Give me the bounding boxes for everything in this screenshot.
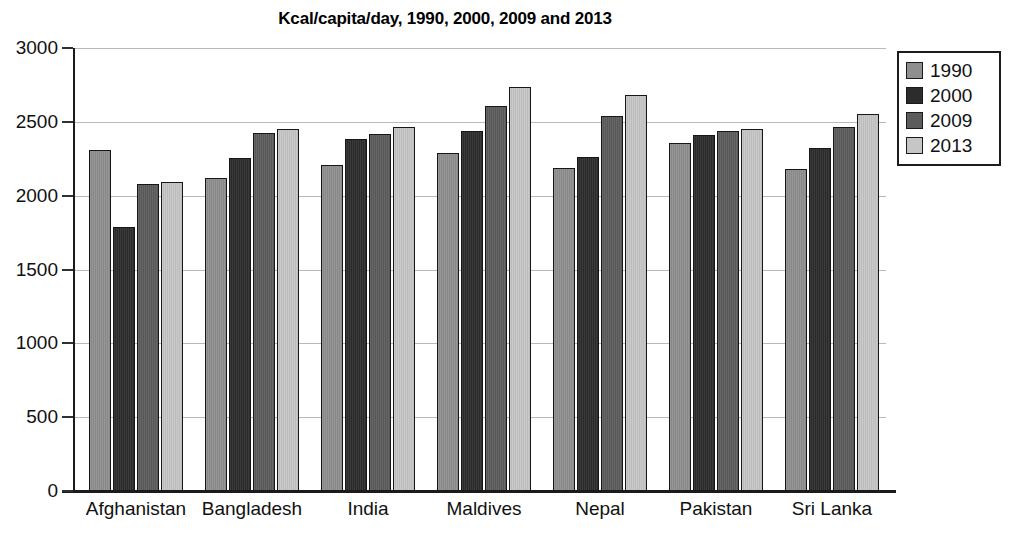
bar[interactable]	[161, 182, 183, 491]
chart-title: Kcal/capita/day, 1990, 2000, 2009 and 20…	[0, 9, 890, 29]
x-axis-labels: AfghanistanBangladeshIndiaMaldivesNepalP…	[74, 498, 886, 532]
y-axis-tick	[62, 121, 73, 123]
y-axis-tick-label: 500	[0, 406, 58, 428]
bar[interactable]	[89, 150, 111, 491]
x-axis-tick-label: Nepal	[575, 498, 625, 520]
bar[interactable]	[345, 139, 367, 491]
y-axis-tick-label: 3000	[0, 37, 58, 59]
legend-swatch-icon	[906, 87, 923, 104]
bar[interactable]	[393, 127, 415, 491]
y-axis-line	[73, 48, 75, 492]
y-axis-tick-label: 1500	[0, 259, 58, 281]
y-axis-tick	[62, 490, 73, 492]
x-axis-tick-label: Bangladesh	[202, 498, 302, 520]
bar[interactable]	[693, 135, 715, 491]
bar-group	[538, 48, 654, 491]
legend-item[interactable]: 2009	[906, 108, 993, 133]
y-axis-tick	[62, 195, 73, 197]
legend-swatch-icon	[906, 62, 923, 79]
legend: 1990200020092013	[897, 51, 1001, 166]
y-axis-tick	[62, 269, 73, 271]
bar[interactable]	[113, 227, 135, 491]
y-axis-tick-label: 0	[0, 480, 58, 502]
bar[interactable]	[553, 168, 575, 491]
bar[interactable]	[785, 169, 807, 491]
y-axis-tick-label: 2500	[0, 111, 58, 133]
y-axis-tick	[62, 47, 73, 49]
bar[interactable]	[485, 106, 507, 491]
legend-item[interactable]: 1990	[906, 58, 993, 83]
bar-group	[74, 48, 190, 491]
legend-item[interactable]: 2000	[906, 83, 993, 108]
bar[interactable]	[137, 184, 159, 491]
plot-area	[74, 48, 886, 491]
bar[interactable]	[833, 127, 855, 491]
y-axis-tick-label: 1000	[0, 332, 58, 354]
bar-group	[654, 48, 770, 491]
bar[interactable]	[669, 143, 691, 491]
legend-item-label: 1990	[930, 61, 972, 80]
bar[interactable]	[253, 133, 275, 491]
y-axis-tick	[62, 416, 73, 418]
legend-swatch-icon	[906, 137, 923, 154]
bar[interactable]	[321, 165, 343, 491]
bar[interactable]	[277, 129, 299, 491]
bar-group	[422, 48, 538, 491]
bar[interactable]	[509, 87, 531, 491]
legend-item-label: 2013	[930, 136, 972, 155]
bar[interactable]	[717, 131, 739, 491]
y-axis-tick-label: 2000	[0, 185, 58, 207]
y-axis-tick	[62, 342, 73, 344]
bar[interactable]	[437, 153, 459, 491]
x-axis-tick-label: Pakistan	[680, 498, 753, 520]
bar[interactable]	[625, 95, 647, 491]
x-axis-line	[62, 490, 896, 493]
bar-group	[190, 48, 306, 491]
legend-swatch-icon	[906, 112, 923, 129]
legend-item[interactable]: 2013	[906, 133, 993, 158]
legend-item-label: 2000	[930, 86, 972, 105]
x-axis-tick-label: Maldives	[447, 498, 522, 520]
bar-group	[770, 48, 886, 491]
bar-group	[306, 48, 422, 491]
legend-item-label: 2009	[930, 111, 972, 130]
x-axis-tick-label: India	[347, 498, 388, 520]
bar[interactable]	[229, 158, 251, 491]
bar[interactable]	[205, 178, 227, 491]
x-axis-tick-label: Sri Lanka	[792, 498, 872, 520]
y-axis-labels: 050010001500200025003000	[0, 48, 58, 491]
chart-figure: Kcal/capita/day, 1990, 2000, 2009 and 20…	[0, 0, 1012, 550]
bar[interactable]	[577, 157, 599, 491]
bar[interactable]	[857, 114, 879, 491]
bar[interactable]	[601, 116, 623, 491]
bar[interactable]	[461, 131, 483, 491]
x-axis-tick-label: Afghanistan	[86, 498, 186, 520]
bar[interactable]	[741, 129, 763, 491]
bar[interactable]	[369, 134, 391, 491]
bar[interactable]	[809, 148, 831, 491]
